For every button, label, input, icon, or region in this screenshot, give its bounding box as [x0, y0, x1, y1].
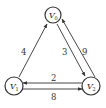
node-v0: V 0 [45, 7, 61, 23]
node-v1: V 1 [5, 77, 23, 95]
node-v2-subscript: 2 [93, 86, 96, 92]
edge-weight-v2-v0: 9 [82, 47, 87, 57]
node-v0-subscript: 0 [55, 15, 58, 21]
edge-weight-v0-v2: 3 [62, 47, 67, 57]
node-v1-subscript: 1 [16, 86, 19, 92]
node-v2: V 2 [82, 77, 100, 95]
edge-v1-v2: 8 [23, 89, 82, 102]
edge-weight-v1-v0: 4 [21, 47, 26, 57]
edge-weight-v1-v2: 8 [51, 92, 56, 102]
edge-v2-v1: 2 [23, 73, 82, 83]
edge-v1-v0: 4 [19, 24, 47, 77]
graph-diagram: 4 3 9 2 8 V 0 V 1 V 2 [0, 0, 106, 108]
edge-v0-v2: 3 [57, 24, 85, 76]
edge-weight-v2-v1: 2 [51, 73, 56, 83]
